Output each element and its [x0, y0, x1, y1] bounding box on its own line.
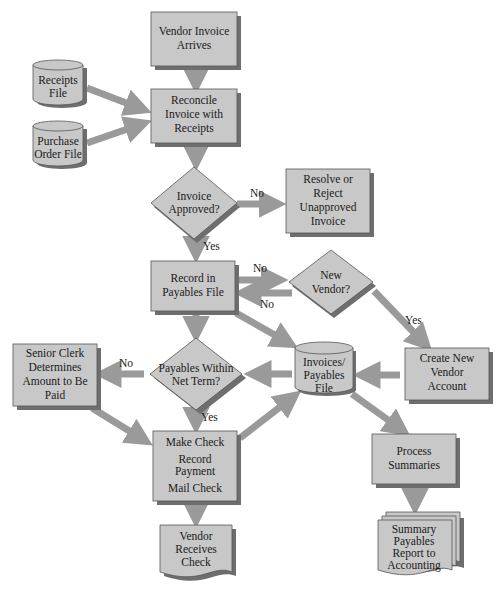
svg-text:Resolve or: Resolve or — [303, 173, 353, 185]
datastore-purchase-order-file: Purchase Order File — [33, 121, 87, 169]
process-resolve-or-reject: Resolve or Reject Unapproved Invoice — [286, 169, 374, 237]
node-text: Account — [428, 380, 468, 392]
node-text: Vendor? — [312, 283, 350, 295]
node-text: Purchase — [37, 135, 79, 147]
svg-text:Invoice: Invoice — [311, 215, 345, 227]
node-text: Order File — [34, 148, 82, 160]
svg-text:Payables Within: Payables Within — [158, 362, 233, 375]
svg-text:File: File — [49, 87, 67, 99]
process-summaries: Process Summaries — [372, 434, 460, 488]
document-vendor-receives-check: Vendor Receives Check — [160, 525, 236, 581]
node-text: Payables — [304, 369, 345, 382]
svg-text:Purchase: Purchase — [37, 135, 79, 147]
decision-payables-within-net-term: Payables Within Net Term? — [150, 338, 246, 414]
svg-text:Invoices/: Invoices/ — [303, 356, 346, 368]
edge-label-yes: Yes — [405, 314, 422, 326]
node-text: Net Term? — [172, 375, 220, 387]
svg-text:Receipts: Receipts — [38, 74, 78, 87]
svg-text:Mail Check: Mail Check — [168, 482, 222, 494]
node-text: Record in — [170, 272, 215, 284]
node-text: Receives — [175, 543, 217, 555]
node-text: New — [320, 269, 342, 281]
svg-text:Create New: Create New — [420, 352, 475, 364]
svg-text:Senior Clerk: Senior Clerk — [26, 347, 85, 359]
svg-text:Payables File: Payables File — [162, 286, 224, 299]
arrow-receipts-to-reconcile — [87, 88, 142, 109]
node-text: Reconcile — [171, 94, 217, 106]
edge-label-no: No — [253, 262, 267, 274]
svg-text:Reject: Reject — [313, 187, 343, 200]
node-text: Invoice — [177, 190, 211, 202]
node-text: Approved? — [168, 203, 219, 216]
node-text: Make Check — [166, 436, 225, 448]
svg-text:Unapproved: Unapproved — [300, 201, 357, 214]
svg-text:Vendor Invoice: Vendor Invoice — [159, 25, 230, 37]
process-record-in-payables: Record in Payables File — [151, 261, 239, 315]
svg-text:Vendor: Vendor — [430, 366, 463, 378]
node-text: Payment — [175, 465, 216, 478]
svg-text:Check: Check — [181, 556, 211, 568]
node-text: Resolve or — [303, 173, 353, 185]
node-text: Reject — [313, 187, 343, 200]
edge-label-no: No — [119, 357, 133, 369]
node-text: Vendor Invoice — [159, 25, 230, 37]
node-text: Vendor — [430, 366, 463, 378]
node-text: Determines — [28, 361, 82, 373]
svg-text:Invoice with: Invoice with — [165, 108, 223, 120]
arrow-makecheck-to-file — [240, 397, 293, 438]
svg-text:Determines: Determines — [28, 361, 82, 373]
svg-text:Vendor?: Vendor? — [312, 283, 350, 295]
datastore-invoices-payables-file: Invoices/ Payables File — [295, 342, 356, 396]
datastore-receipts-file: Receipts File — [33, 60, 87, 108]
node-text: Record — [178, 453, 211, 465]
svg-text:Approved?: Approved? — [168, 203, 219, 216]
svg-text:Summaries: Summaries — [388, 459, 440, 471]
node-text: File — [49, 87, 67, 99]
node-text: Summaries — [388, 459, 440, 471]
svg-text:Reconcile: Reconcile — [171, 94, 217, 106]
node-text: Amount to Be — [22, 375, 87, 387]
node-text: Arrives — [177, 39, 212, 51]
process-make-check: Make Check Record Payment Mail Check — [153, 431, 241, 505]
svg-text:Receipts: Receipts — [174, 122, 214, 135]
node-text: Receipts — [38, 74, 78, 87]
process-senior-clerk-determines: Senior Clerk Determines Amount to Be Pai… — [13, 344, 101, 410]
ap-flowchart: Vendor Invoice Arrives Receipts File Pur… — [0, 0, 500, 598]
edge-label-yes: Yes — [203, 240, 220, 252]
svg-text:Paid: Paid — [45, 389, 66, 401]
arrow-record-to-file — [236, 313, 289, 343]
node-text: Process — [396, 445, 432, 457]
svg-text:Payables: Payables — [304, 369, 345, 382]
arrow-file-to-summaries — [352, 394, 402, 430]
arrow-clerk-to-makecheck — [92, 408, 144, 440]
decision-new-vendor: New Vendor? — [289, 250, 376, 318]
node-text: Invoice with — [165, 108, 223, 120]
process-create-new-vendor: Create New Vendor Account — [405, 348, 493, 404]
svg-text:Payment: Payment — [175, 465, 216, 478]
node-text: Receipts — [174, 122, 214, 135]
svg-text:Account: Account — [428, 380, 468, 392]
node-text: Vendor — [179, 530, 212, 542]
svg-text:Process: Process — [396, 445, 432, 457]
node-text: Payables File — [162, 286, 224, 299]
process-vendor-invoice-arrives: Vendor Invoice Arrives — [151, 12, 241, 70]
node-text: Unapproved — [300, 201, 357, 214]
svg-text:New: New — [320, 269, 342, 281]
node-text: File — [315, 382, 333, 394]
svg-text:Record in: Record in — [170, 272, 215, 284]
node-text: Mail Check — [168, 482, 222, 494]
edge-label-no: No — [260, 298, 274, 310]
edge-label-yes: Yes — [201, 411, 218, 423]
svg-text:Arrives: Arrives — [177, 39, 212, 51]
svg-text:Receives: Receives — [175, 543, 217, 555]
node-text: Accounting — [387, 559, 441, 572]
svg-text:Accounting: Accounting — [387, 559, 441, 572]
node-text: Invoices/ — [303, 356, 346, 368]
decision-invoice-approved: Invoice Approved? — [151, 167, 240, 243]
document-summary-payables-report: Summary Payables Report to Accounting — [378, 512, 464, 575]
svg-text:Invoice: Invoice — [177, 190, 211, 202]
svg-text:Record: Record — [178, 453, 211, 465]
process-reconcile-invoice: Reconcile Invoice with Receipts — [151, 89, 241, 147]
svg-text:Amount to Be: Amount to Be — [22, 375, 87, 387]
edge-label-no: No — [250, 187, 264, 199]
